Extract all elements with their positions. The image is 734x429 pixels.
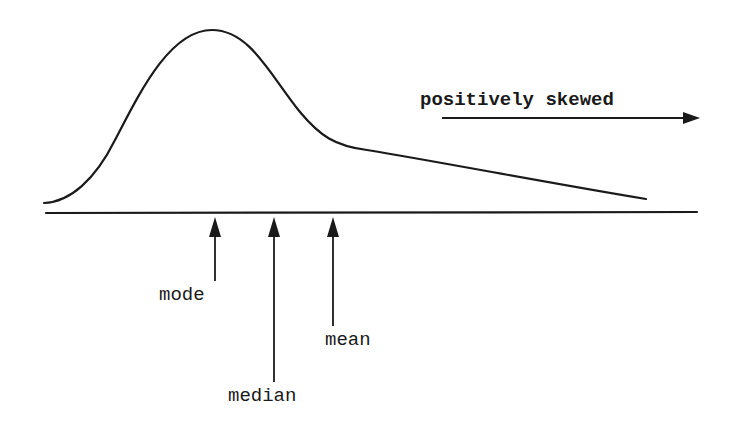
median-arrow-icon (268, 217, 280, 382)
median-label: median (228, 385, 296, 407)
baseline-axis (46, 212, 697, 213)
mean-arrow-icon (327, 217, 339, 326)
mean-label: mean (325, 329, 371, 351)
mode-arrow-icon (209, 217, 221, 281)
distribution-curve (44, 30, 646, 203)
direction-arrow-icon (442, 112, 700, 124)
skewed-distribution-diagram: positively skewed mode median mean (0, 0, 734, 429)
direction-label: positively skewed (420, 89, 614, 111)
mode-label: mode (159, 284, 205, 306)
